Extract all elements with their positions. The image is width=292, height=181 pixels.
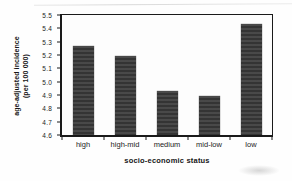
bar-mid-low	[199, 96, 220, 135]
x-tick-label-mid-low: mid-low	[196, 140, 222, 149]
scan-artifact-line	[34, 3, 292, 6]
y-tick-label: 4.6	[42, 132, 52, 139]
bar-high	[73, 46, 94, 135]
plot-area	[60, 14, 273, 137]
y-axis: 4.64.74.84.95.05.15.25.35.45.5	[0, 15, 60, 135]
y-tick-label: 5.4	[42, 25, 52, 32]
x-tick-label-high-mid: high-mid	[111, 140, 140, 149]
y-tick-label: 4.9	[42, 92, 52, 99]
bar-low	[241, 24, 262, 135]
scan-artifact-smudge	[238, 165, 280, 176]
y-tick-label: 5.0	[42, 78, 52, 85]
bar-high-mid	[115, 56, 136, 135]
y-tick-label: 5.1	[42, 65, 52, 72]
x-axis-labels: highhigh-midmediummid-lowlow	[62, 140, 272, 150]
y-tick-label: 4.8	[42, 105, 52, 112]
x-axis-title: socio-economic status	[124, 156, 209, 165]
bar-chart-figure: age-adjusted incidence (per 100 000) 4.6…	[0, 0, 292, 181]
x-tick-label-low: low	[245, 140, 256, 149]
y-tick-label: 5.3	[42, 38, 52, 45]
bar-medium	[157, 91, 178, 135]
x-tick-label-medium: medium	[154, 140, 181, 149]
x-tick-label-high: high	[76, 140, 90, 149]
y-tick-label: 5.5	[42, 12, 52, 19]
y-tick-label: 5.2	[42, 52, 52, 59]
y-tick-label: 4.7	[42, 118, 52, 125]
